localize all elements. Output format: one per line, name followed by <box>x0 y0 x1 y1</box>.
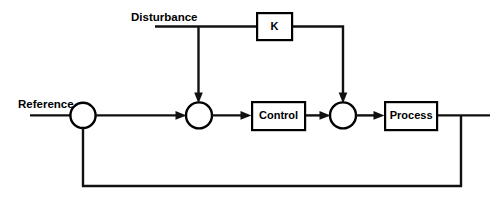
signal-label-disturbance: Disturbance <box>131 11 197 23</box>
block-process-label: Process <box>390 109 433 121</box>
signal-label-reference: Reference <box>18 98 74 110</box>
summing-junction-error-disturbance <box>186 102 212 128</box>
wire-k-to-sum-feedforward <box>293 27 344 97</box>
block-k-label: K <box>271 20 279 32</box>
diagram-canvas: K Control Process <box>0 0 498 201</box>
arrowhead-into-control <box>241 111 252 120</box>
block-control-label: Control <box>259 109 298 121</box>
summing-junction-reference-feedback <box>70 103 95 128</box>
arrowhead-into-process <box>374 111 385 120</box>
control-block-diagram: K Control Process <box>0 0 498 201</box>
summing-junction-control-feedforward <box>330 102 356 128</box>
